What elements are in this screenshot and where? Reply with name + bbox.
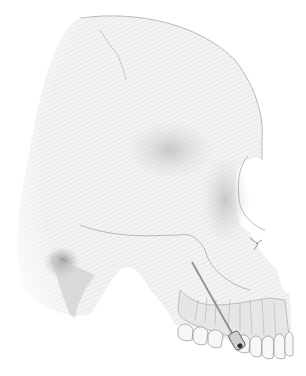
temporal-shadow: [125, 120, 215, 180]
skull-drawing: [0, 0, 306, 376]
skull-illustration: [0, 0, 306, 376]
orbit-shadow: [200, 155, 250, 245]
